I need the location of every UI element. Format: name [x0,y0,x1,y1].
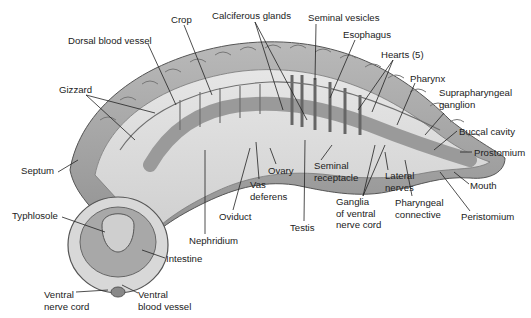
earthworm-anatomy-diagram: Crop Calciferous glands Seminal vesicles… [0,0,531,318]
label-septum: Septum [21,165,54,177]
label-typhlosole: Typhlosole [12,210,58,222]
label-mouth: Mouth [470,180,497,192]
label-ventral-blood-vessel: Ventral blood vessel [138,289,191,312]
label-esophagus: Esophagus [343,29,391,41]
label-ventral-nerve-cord: Ventral nerve cord [44,289,89,312]
label-gizzard: Gizzard [59,84,92,96]
label-intestine: Intestine [166,253,202,265]
label-crop: Crop [171,14,192,26]
label-dorsal-blood-vessel: Dorsal blood vessel [68,35,152,47]
label-peristomium: Peristomium [461,211,514,223]
label-hearts: Hearts (5) [381,49,424,61]
label-pharynx: Pharynx [410,73,445,85]
label-calciferous-glands: Calciferous glands [212,10,291,22]
earthworm-illustration [0,0,531,318]
label-suprapharyngeal-ganglion: Suprapharyngeal ganglion [439,87,512,110]
label-seminal-receptacle: Seminal receptacle [314,160,358,183]
label-seminal-vesicles: Seminal vesicles [308,12,379,24]
label-lateral-nerves: Lateral nerves [385,170,414,193]
ventral-cord-section [111,287,125,297]
label-vas-deferens: Vas deferens [250,179,287,202]
label-oviduct: Oviduct [219,211,252,223]
label-nephridium: Nephridium [189,235,238,247]
label-buccal-cavity: Buccal cavity [459,126,515,138]
label-pharyngeal-connective: Pharyngeal connective [395,197,444,220]
label-ovary: Ovary [268,165,294,177]
label-prostomium: Prostomium [474,147,525,159]
label-testis: Testis [290,222,315,234]
label-ganglia-ventral-nerve-cord: Ganglia of ventral nerve cord [336,196,381,231]
